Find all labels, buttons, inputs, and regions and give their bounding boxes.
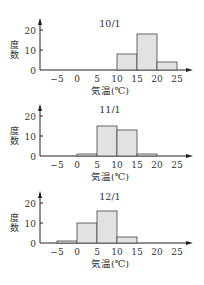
histogram-bar [77, 223, 97, 243]
x-tick-label: 0 [74, 74, 80, 84]
chart-svg: 01020度数−50510152025気温(℃)11/1 [0, 86, 204, 181]
y-tick-label: 0 [30, 239, 36, 249]
x-tick-label: 0 [74, 160, 80, 170]
y-tick-label: 10 [25, 46, 37, 56]
y-axis-arrow-icon [38, 104, 42, 111]
histogram-bar [77, 154, 97, 156]
y-axis-arrow-icon [38, 18, 42, 25]
y-axis-label: 度 [10, 39, 19, 50]
histogram-bar [137, 154, 157, 156]
histogram-bar [117, 54, 137, 70]
chart-svg: 01020度数−50510152025気温(℃)12/1 [0, 173, 204, 268]
x-tick-label: 15 [131, 160, 143, 170]
y-axis-label: 数 [10, 135, 19, 146]
histogram-12-1: 01020度数−50510152025気温(℃)12/1 [0, 173, 204, 268]
histogram-bar [57, 241, 77, 243]
y-tick-label: 10 [25, 132, 37, 142]
x-tick-label: −5 [50, 160, 64, 170]
y-axis-label: 数 [10, 49, 19, 60]
x-tick-label: 20 [151, 74, 163, 84]
y-tick-label: 0 [30, 66, 36, 76]
y-tick-label: 0 [30, 152, 36, 162]
histogram-bar [117, 130, 137, 156]
x-axis-arrow-icon [186, 241, 193, 245]
x-tick-label: 10 [111, 160, 123, 170]
y-tick-label: 10 [25, 219, 37, 229]
histogram-10-1: 01020度数−50510152025気温(℃)10/1 [0, 0, 204, 95]
x-axis-arrow-icon [186, 68, 193, 72]
histogram-bar [97, 211, 117, 243]
y-axis-arrow-icon [38, 191, 42, 198]
x-tick-label: 10 [111, 74, 123, 84]
histogram-bar [117, 237, 137, 243]
histogram-bar [97, 126, 117, 156]
histogram-11-1: 01020度数−50510152025気温(℃)11/1 [0, 86, 204, 181]
y-tick-label: 20 [25, 26, 37, 36]
y-tick-label: 20 [25, 112, 37, 122]
x-axis-arrow-icon [186, 154, 193, 158]
chart-title: 12/1 [99, 191, 120, 202]
x-tick-label: −5 [50, 74, 64, 84]
x-tick-label: 25 [171, 160, 183, 170]
y-tick-label: 20 [25, 199, 37, 209]
x-tick-label: 5 [94, 247, 100, 257]
x-tick-label: 25 [171, 247, 183, 257]
y-axis-label: 度 [10, 212, 19, 223]
x-tick-label: 25 [171, 74, 183, 84]
x-tick-label: 5 [94, 74, 100, 84]
histogram-bar [157, 62, 177, 70]
x-tick-label: −5 [50, 247, 64, 257]
y-axis-label: 数 [10, 222, 19, 233]
x-tick-label: 0 [74, 247, 80, 257]
chart-title: 11/1 [99, 104, 120, 115]
x-tick-label: 15 [131, 247, 143, 257]
x-tick-label: 20 [151, 160, 163, 170]
chart-svg: 01020度数−50510152025気温(℃)10/1 [0, 0, 204, 95]
x-axis-label: 気温(℃) [91, 258, 129, 268]
chart-title: 10/1 [99, 18, 120, 29]
x-tick-label: 20 [151, 247, 163, 257]
y-axis-label: 度 [10, 125, 19, 136]
x-tick-label: 5 [94, 160, 100, 170]
histogram-bar [137, 34, 157, 70]
x-tick-label: 15 [131, 74, 143, 84]
x-tick-label: 10 [111, 247, 123, 257]
